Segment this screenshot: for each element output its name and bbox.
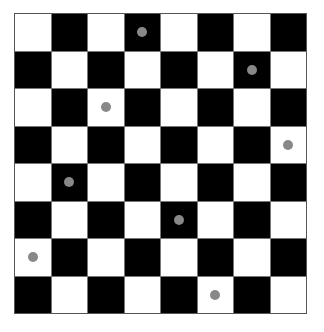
square-r1-c6[interactable]: [234, 52, 270, 89]
square-r1-c4[interactable]: [161, 52, 197, 89]
checkerboard: [14, 13, 307, 314]
square-r4-c4[interactable]: [161, 164, 197, 201]
square-r3-c1[interactable]: [52, 127, 88, 164]
square-r1-c5[interactable]: [198, 52, 234, 89]
square-r6-c2[interactable]: [88, 239, 124, 276]
square-r7-c4[interactable]: [161, 277, 197, 314]
square-r0-c4[interactable]: [161, 14, 197, 51]
square-r1-c3[interactable]: [125, 52, 161, 89]
square-r7-c7[interactable]: [271, 277, 307, 314]
square-r7-c6[interactable]: [234, 277, 270, 314]
square-r6-c4[interactable]: [161, 239, 197, 276]
square-r4-c6[interactable]: [234, 164, 270, 201]
square-r3-c2[interactable]: [88, 127, 124, 164]
square-r4-c0[interactable]: [15, 164, 51, 201]
square-r7-c2[interactable]: [88, 277, 124, 314]
square-r2-c7[interactable]: [271, 89, 307, 126]
square-r2-c3[interactable]: [125, 89, 161, 126]
square-r1-c0[interactable]: [15, 52, 51, 89]
square-r4-c3[interactable]: [125, 164, 161, 201]
square-r5-c0[interactable]: [15, 202, 51, 239]
square-r2-c2[interactable]: [88, 89, 124, 126]
square-r2-c6[interactable]: [234, 89, 270, 126]
square-r4-c7[interactable]: [271, 164, 307, 201]
dot-marker[interactable]: [283, 140, 293, 150]
square-r1-c2[interactable]: [88, 52, 124, 89]
square-r6-c1[interactable]: [52, 239, 88, 276]
square-r0-c3[interactable]: [125, 14, 161, 51]
square-r7-c0[interactable]: [15, 277, 51, 314]
square-r0-c1[interactable]: [52, 14, 88, 51]
square-r7-c3[interactable]: [125, 277, 161, 314]
square-r2-c5[interactable]: [198, 89, 234, 126]
square-r1-c7[interactable]: [271, 52, 307, 89]
square-r5-c1[interactable]: [52, 202, 88, 239]
square-r6-c0[interactable]: [15, 239, 51, 276]
square-r5-c4[interactable]: [161, 202, 197, 239]
square-r0-c5[interactable]: [198, 14, 234, 51]
square-r6-c5[interactable]: [198, 239, 234, 276]
square-r0-c2[interactable]: [88, 14, 124, 51]
square-r5-c3[interactable]: [125, 202, 161, 239]
dot-marker[interactable]: [247, 65, 257, 75]
square-r0-c6[interactable]: [234, 14, 270, 51]
square-r0-c7[interactable]: [271, 14, 307, 51]
square-r5-c7[interactable]: [271, 202, 307, 239]
square-r5-c2[interactable]: [88, 202, 124, 239]
square-r3-c3[interactable]: [125, 127, 161, 164]
dot-marker[interactable]: [101, 102, 111, 112]
dot-marker[interactable]: [174, 215, 184, 225]
square-r7-c1[interactable]: [52, 277, 88, 314]
square-r1-c1[interactable]: [52, 52, 88, 89]
square-r2-c0[interactable]: [15, 89, 51, 126]
dot-marker[interactable]: [137, 27, 147, 37]
square-r2-c1[interactable]: [52, 89, 88, 126]
square-r3-c0[interactable]: [15, 127, 51, 164]
square-r5-c5[interactable]: [198, 202, 234, 239]
square-r4-c5[interactable]: [198, 164, 234, 201]
square-r3-c5[interactable]: [198, 127, 234, 164]
square-r6-c7[interactable]: [271, 239, 307, 276]
square-r3-c4[interactable]: [161, 127, 197, 164]
square-r4-c2[interactable]: [88, 164, 124, 201]
square-r6-c6[interactable]: [234, 239, 270, 276]
square-r3-c6[interactable]: [234, 127, 270, 164]
square-r7-c5[interactable]: [198, 277, 234, 314]
dot-marker[interactable]: [210, 290, 220, 300]
square-r2-c4[interactable]: [161, 89, 197, 126]
square-r6-c3[interactable]: [125, 239, 161, 276]
dot-marker[interactable]: [28, 252, 38, 262]
square-r3-c7[interactable]: [271, 127, 307, 164]
square-r5-c6[interactable]: [234, 202, 270, 239]
square-r0-c0[interactable]: [15, 14, 51, 51]
square-r4-c1[interactable]: [52, 164, 88, 201]
dot-marker[interactable]: [64, 177, 74, 187]
